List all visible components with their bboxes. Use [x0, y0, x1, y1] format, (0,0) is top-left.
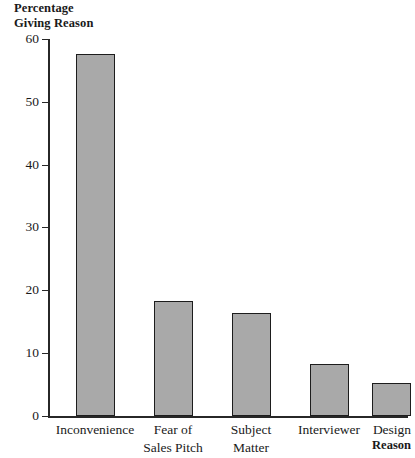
- y-tick-label: 60: [26, 30, 40, 47]
- x-label-design: Design: [358, 421, 415, 439]
- bar-chart-figure: Percentage Giving Reason 0 10 20 30 40 5: [0, 0, 415, 458]
- y-axis-title-line-1: Percentage: [14, 1, 144, 16]
- bar-interviewer: [310, 364, 349, 416]
- x-label-line: Matter: [207, 439, 295, 457]
- bar-design: [372, 383, 411, 416]
- y-axis-line: [48, 39, 50, 417]
- y-tick-label: 10: [26, 344, 40, 361]
- x-axis-title: Reason: [372, 438, 411, 453]
- bar-inconvenience: [76, 54, 115, 416]
- plot-area: 0 10 20 30 40 50 60: [48, 39, 408, 417]
- y-tick-mark: [42, 416, 48, 417]
- x-axis-labels: Inconvenience Fear of Sales Pitch Subjec…: [48, 421, 408, 458]
- y-axis-title: Percentage Giving Reason: [14, 1, 144, 30]
- y-tick-mark: [42, 165, 48, 166]
- x-axis-line: [48, 416, 408, 418]
- x-label-fear-of-sales-pitch: Fear of Sales Pitch: [126, 421, 220, 456]
- y-tick-mark: [42, 227, 48, 228]
- y-tick-mark: [42, 39, 48, 40]
- y-tick-mark: [42, 102, 48, 103]
- y-tick-label: 50: [26, 93, 40, 110]
- bar-subject-matter: [232, 313, 271, 416]
- x-label-line: Sales Pitch: [126, 439, 220, 457]
- y-tick-mark: [42, 353, 48, 354]
- bar-fear-of-sales-pitch: [154, 301, 193, 416]
- y-tick-label: 20: [26, 281, 40, 298]
- y-tick-label: 30: [26, 218, 40, 235]
- y-tick-mark: [42, 290, 48, 291]
- x-label-line: Design: [358, 421, 415, 439]
- y-tick-label: 40: [26, 156, 40, 173]
- x-label-line: Fear of: [126, 421, 220, 439]
- y-axis-title-line-2: Giving Reason: [14, 16, 144, 31]
